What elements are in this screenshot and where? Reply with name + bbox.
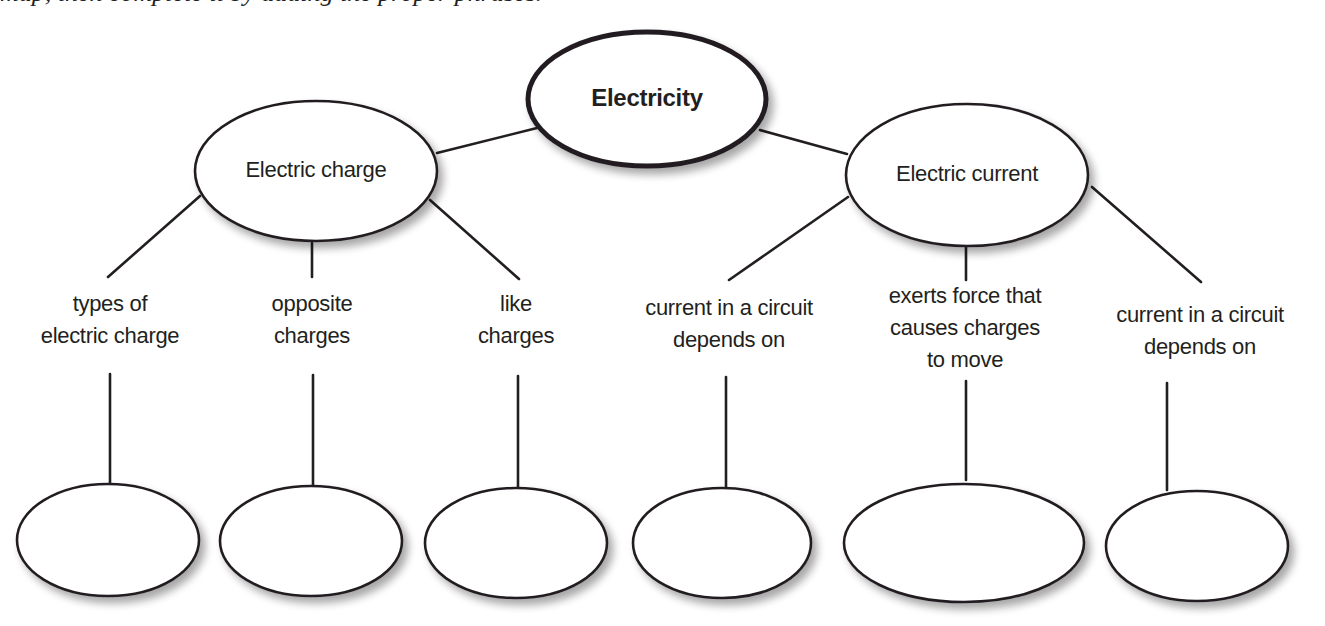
answer-oval-1[interactable] [17,484,199,596]
branch-label-electric-charge: Electric charge [245,157,386,183]
answer-oval-5[interactable] [844,484,1084,602]
answer-oval-6[interactable] [1106,491,1288,601]
link-line: charges [478,320,554,352]
link-line: opposite [272,288,353,320]
connector-root-to-electric-current [760,130,847,154]
answer-oval-3[interactable] [425,488,607,598]
link-line: depends on [645,324,813,356]
answer-oval-4[interactable] [633,488,811,598]
link-phrase-current-depends-on-1: current in a circuit depends on [645,292,813,356]
link-phrase-like-charges: like charges [478,288,554,352]
link-line: charges [272,320,353,352]
link-phrase-opposite-charges: opposite charges [272,288,353,352]
link-line: to move [889,344,1042,376]
link-line: electric charge [41,320,180,352]
connector-charge-to-like [430,200,519,279]
link-line: causes charges [889,312,1042,344]
link-phrase-types-of-electric-charge: types of electric charge [41,288,180,352]
branch-label-electric-current: Electric current [896,161,1038,187]
link-line: exerts force that [889,280,1042,312]
link-phrase-current-depends-on-2: current in a circuit depends on [1116,299,1284,363]
link-line: like [478,288,554,320]
link-line: current in a circuit [1116,299,1284,331]
connector-current-to-depends-2 [1092,187,1201,282]
connector-root-to-electric-charge [437,128,537,153]
connector-current-to-depends-1 [729,197,848,280]
link-line: types of [41,288,180,320]
connector-charge-to-types [108,196,200,277]
root-label: Electricity [591,84,702,112]
answer-oval-2[interactable] [220,486,402,596]
link-line: depends on [1116,331,1284,363]
link-phrase-exerts-force: exerts force that causes charges to move [889,280,1042,376]
link-line: current in a circuit [645,292,813,324]
